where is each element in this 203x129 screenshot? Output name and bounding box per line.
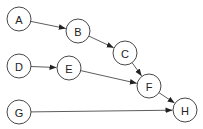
node-a: A	[7, 7, 31, 31]
node-label: H	[181, 105, 189, 117]
node-d: D	[7, 54, 31, 78]
edge-c-to-f	[132, 63, 142, 76]
node-label: E	[65, 63, 72, 75]
node-h: H	[173, 98, 197, 122]
edge-d-to-e	[31, 67, 57, 68]
node-label: D	[15, 61, 23, 73]
node-label: G	[15, 107, 24, 119]
node-label: B	[74, 26, 81, 38]
node-f: F	[137, 74, 161, 98]
directed-graph: ABCDEFGH	[0, 0, 203, 129]
node-label: C	[121, 48, 129, 60]
node-b: B	[66, 19, 90, 43]
edge-a-to-b	[31, 21, 66, 28]
node-label: F	[146, 81, 153, 93]
node-c: C	[113, 41, 137, 65]
edges-layer	[31, 21, 175, 112]
edge-g-to-h	[31, 110, 173, 112]
edge-e-to-f	[81, 71, 137, 84]
node-label: A	[15, 14, 23, 26]
node-g: G	[7, 100, 31, 124]
node-e: E	[57, 56, 81, 80]
edge-f-to-h	[159, 93, 175, 103]
nodes-layer: ABCDEFGH	[7, 7, 197, 124]
edge-b-to-c	[89, 36, 114, 48]
